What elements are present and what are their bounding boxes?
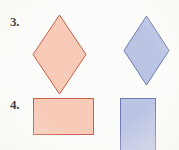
blue-rhombus-shape [124, 16, 169, 85]
worksheet-page: 3. 4. [0, 0, 179, 150]
blue-rhombus-svg [124, 16, 169, 85]
rhombus-polygon [33, 15, 86, 94]
salmon-rhombus-shape [33, 15, 86, 94]
blue-rectangle-shape [120, 98, 156, 150]
salmon-rectangle-shape [33, 98, 94, 135]
problem-number-3: 3. [10, 15, 19, 28]
rhombus-polygon [124, 16, 169, 85]
salmon-rhombus-svg [33, 15, 86, 94]
problem-number-4: 4. [10, 98, 19, 111]
